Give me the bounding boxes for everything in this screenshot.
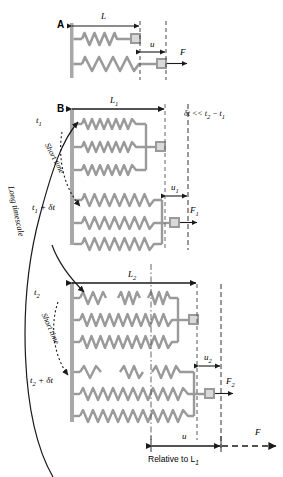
panel-a-wall (70, 23, 74, 78)
panel-b-g2-state-t2 (74, 292, 198, 348)
panel-a-row2 (74, 57, 188, 71)
panel-b-dimension-L2-label: L2 (128, 270, 136, 281)
panel-b-group1-graphics (70, 104, 197, 250)
panel-b-g1-node-t1 (156, 142, 165, 151)
panel-b-g1-node-t1dt (170, 218, 179, 227)
bottom-dimension-u-label: u (182, 432, 187, 441)
long-timescale-arrow-2 (52, 245, 84, 292)
panel-b-force-F2-label: F2 (226, 377, 235, 388)
panel-a-node-stretched (157, 59, 166, 68)
panel-a-force-label: F (180, 48, 186, 57)
delta-t-note: δt << t2 − t1 (184, 110, 225, 120)
figure-svg (0, 0, 283, 477)
panel-b-g2-node-t2dt (205, 389, 214, 398)
panel-b-group2-wall (70, 282, 74, 422)
bottom-force-F-label: F (255, 428, 261, 437)
timescale-arrows (25, 122, 84, 477)
panel-a-dimension-L-label: L (101, 12, 106, 21)
panel-a-label: A (57, 20, 64, 30)
panel-b-dimension-u1-label: u1 (171, 183, 179, 194)
panel-b-bottom-dimension-graphics (151, 436, 276, 452)
panel-a-graphics (70, 21, 187, 80)
time-label-t2: t2 (34, 288, 40, 299)
time-label-t1: t1 (36, 116, 42, 127)
panel-a-dimension-u-label: u (150, 40, 155, 49)
figure-root: A B L u F L1 u1 F1 t1 t1 + δt δt << t2 −… (0, 0, 283, 477)
panel-b-g1-state-t1dt (74, 194, 197, 250)
panel-b-force-F1-label: F1 (190, 206, 199, 217)
panel-b-dimension-u2-label: u2 (204, 353, 212, 364)
relative-to-label: Relative to L1 (148, 455, 199, 466)
time-label-t2-dt: t2 + δt (30, 376, 53, 387)
panel-b-label: B (57, 104, 64, 114)
panel-a-node-relaxed (131, 34, 140, 43)
time-label-t1-dt: t1 + δt (32, 203, 55, 214)
panel-b-dimension-L1-label: L1 (110, 96, 118, 107)
panel-a-row1 (74, 33, 141, 45)
panel-b-g2-state-t2dt (74, 366, 233, 422)
panel-b-g1-state-t1 (74, 119, 165, 175)
